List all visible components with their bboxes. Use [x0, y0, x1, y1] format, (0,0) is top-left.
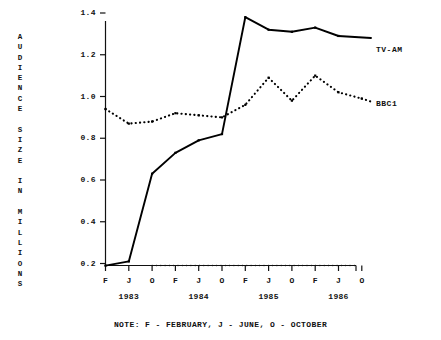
series-point: [314, 27, 316, 29]
series-line-tv-am: [106, 17, 339, 265]
y-tick-label: 1.2: [70, 50, 96, 59]
series-line-bbc1: [106, 76, 362, 124]
series-label-tvam: TV-AM: [376, 45, 403, 54]
legend-stub-tvam: [339, 36, 372, 38]
y-tick-label: 0.8: [70, 133, 96, 142]
series-point: [198, 139, 200, 141]
x-tick-label: J: [193, 276, 205, 285]
y-tick-label: 0.2: [70, 259, 96, 268]
y-tick-label: 0.6: [70, 175, 96, 184]
x-tick-label: F: [169, 276, 181, 285]
x-tick-label: F: [239, 276, 251, 285]
series-point: [128, 260, 130, 262]
y-axis-ticks: [100, 13, 106, 264]
chart-axes: [100, 13, 362, 271]
x-tick-label: O: [216, 276, 228, 285]
y-tick-label: 1.0: [70, 92, 96, 101]
series-point: [128, 123, 130, 125]
chart-figure: A U D I E N C E S I Z E I N M I L L I O …: [0, 0, 441, 340]
series-point: [221, 133, 223, 135]
series-point: [198, 114, 200, 116]
x-axis-year-label: 1983: [109, 292, 149, 301]
y-tick-label: 1.4: [70, 8, 96, 17]
x-tick-label: O: [356, 276, 368, 285]
series-point: [268, 77, 270, 79]
chart-note: NOTE: F - FEBRUARY, J - JUNE, O - OCTOBE…: [0, 320, 441, 329]
legend-stub-bbc1: [362, 99, 371, 102]
x-tick-label: O: [146, 276, 158, 285]
x-axis-ticks: [106, 266, 362, 272]
x-tick-label: F: [309, 276, 321, 285]
series-point: [244, 16, 246, 18]
chart-legend-stubs: [339, 36, 372, 102]
series-point: [174, 152, 176, 154]
x-axis-year-label: 1984: [179, 292, 219, 301]
series-point: [104, 264, 106, 266]
x-axis-year-label: 1985: [249, 292, 289, 301]
chart-series-layer: [104, 16, 363, 267]
series-point: [291, 100, 293, 102]
series-point: [244, 104, 246, 106]
y-tick-label: 0.4: [70, 217, 96, 226]
series-point: [291, 31, 293, 33]
x-axis-year-label: 1986: [319, 292, 359, 301]
x-tick-label: O: [286, 276, 298, 285]
x-tick-label: J: [123, 276, 135, 285]
x-tick-label: F: [100, 276, 112, 285]
series-point: [151, 120, 153, 122]
series-point: [268, 29, 270, 31]
series-point: [221, 116, 223, 118]
series-label-bbc1: BBC1: [376, 99, 397, 108]
series-point: [174, 112, 176, 114]
series-point: [104, 108, 106, 110]
series-point: [151, 173, 153, 175]
x-tick-label: J: [333, 276, 345, 285]
series-point: [314, 75, 316, 77]
series-point: [337, 91, 339, 93]
chart-plot-area: [0, 0, 441, 340]
x-tick-label: J: [263, 276, 275, 285]
